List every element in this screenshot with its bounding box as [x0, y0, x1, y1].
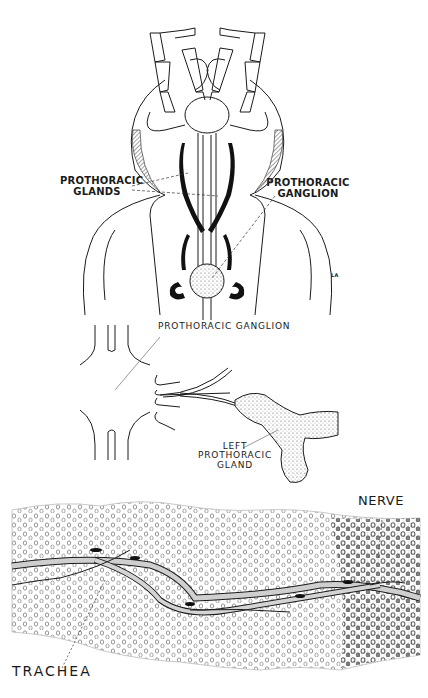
label-nerve: NERVE [358, 494, 404, 508]
label-prothoracic-glands: PROTHORACIC GLANDS [60, 176, 134, 197]
label-trachea: TRACHEA [12, 664, 92, 679]
leader-lines-middle [115, 337, 278, 448]
label-prothoracic-ganglion-top: PROTHORACIC GANGLION [262, 178, 354, 199]
label-gland-line3: GLAND [190, 461, 280, 470]
artist-initials: LA [331, 273, 338, 278]
anatomical-illustration [0, 0, 428, 698]
label-glands-line2: GLANDS [60, 187, 134, 198]
label-glands-line1: PROTHORACIC [60, 176, 134, 187]
label-left-prothoracic-gland: LEFT PROTHORACIC GLAND [190, 442, 280, 470]
label-ganglion-line2: GANGLION [262, 189, 354, 200]
label-prothoracic-ganglion-middle: PROTHORACIC GANGLION [158, 322, 290, 331]
label-ganglion-line1: PROTHORACIC [262, 178, 354, 189]
panel-middle-drawing [80, 325, 237, 460]
